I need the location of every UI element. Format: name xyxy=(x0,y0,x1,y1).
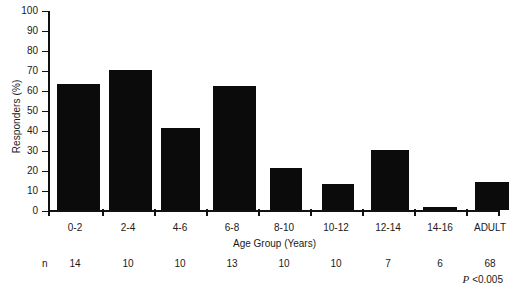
x-category-label-2: 4-6 xyxy=(154,222,206,233)
x-category-label-3: 6-8 xyxy=(206,222,258,233)
y-tick-label-70: 70 xyxy=(12,65,38,76)
y-tick-label-100: 100 xyxy=(12,5,38,16)
y-tick-20: 20 xyxy=(42,171,50,172)
y-tick-label-0: 0 xyxy=(12,205,38,216)
y-tick-label-60: 60 xyxy=(12,85,38,96)
x-tick-5 xyxy=(310,209,312,216)
bar-10-12 xyxy=(322,184,354,210)
bar-6-8 xyxy=(213,86,256,210)
bar-0-2 xyxy=(57,84,100,210)
y-tick-10: 10 xyxy=(42,191,50,192)
bar-8-10 xyxy=(270,168,302,210)
x-category-label-1: 2-4 xyxy=(102,222,154,233)
n-value-8: 68 xyxy=(462,258,518,269)
n-value-1: 10 xyxy=(102,258,154,269)
y-tick-label-30: 30 xyxy=(12,145,38,156)
x-tick-2 xyxy=(154,209,156,216)
bar-4-6 xyxy=(161,128,200,210)
y-tick-60: 60 xyxy=(42,91,50,92)
x-tick-3 xyxy=(206,209,208,216)
n-row-label: n xyxy=(42,258,48,269)
x-category-label-4: 8-10 xyxy=(258,222,310,233)
x-category-label-0: 0-2 xyxy=(48,222,102,233)
y-tick-label-50: 50 xyxy=(12,105,38,116)
n-value-3: 13 xyxy=(206,258,258,269)
x-tick-7 xyxy=(414,209,416,216)
y-tick-100: 100 xyxy=(42,11,50,12)
x-tick-4 xyxy=(258,209,260,216)
x-tick-6 xyxy=(362,209,364,216)
p-value-annotation: P <0.005 xyxy=(463,273,503,285)
y-tick-70: 70 xyxy=(42,71,50,72)
p-symbol: P xyxy=(463,273,470,285)
y-tick-label-20: 20 xyxy=(12,165,38,176)
n-value-0: 14 xyxy=(52,258,98,269)
n-value-7: 6 xyxy=(414,258,466,269)
bar-14-16 xyxy=(423,207,457,210)
y-tick-90: 90 xyxy=(42,31,50,32)
y-tick-30: 30 xyxy=(42,151,50,152)
n-value-5: 10 xyxy=(310,258,362,269)
x-tick-8 xyxy=(466,209,468,216)
x-category-label-5: 10-12 xyxy=(310,222,362,233)
bar-12-14 xyxy=(371,150,409,210)
n-value-2: 10 xyxy=(154,258,206,269)
x-category-label-6: 12-14 xyxy=(362,222,414,233)
plot-area: 0 10 20 30 40 50 60 70 80 90 100 xyxy=(48,11,500,211)
y-tick-label-40: 40 xyxy=(12,125,38,136)
x-tick-1 xyxy=(102,209,104,216)
x-tick-9 xyxy=(498,209,500,216)
bar-adult xyxy=(475,182,509,210)
x-tick-0 xyxy=(48,209,50,216)
x-category-label-7: 14-16 xyxy=(414,222,466,233)
x-axis-title: Age Group (Years) xyxy=(0,238,521,249)
y-tick-40: 40 xyxy=(42,131,50,132)
y-tick-label-90: 90 xyxy=(12,25,38,36)
bar-chart-figure: Responders (%) 0 10 20 30 40 50 60 70 80 xyxy=(0,0,521,291)
y-tick-80: 80 xyxy=(42,51,50,52)
y-tick-label-80: 80 xyxy=(12,45,38,56)
x-category-label-8: ADULT xyxy=(462,222,518,233)
x-axis-line xyxy=(48,210,500,212)
y-tick-50: 50 xyxy=(42,111,50,112)
bar-2-4 xyxy=(109,70,152,210)
p-value-text: <0.005 xyxy=(472,274,503,285)
n-value-4: 10 xyxy=(258,258,310,269)
y-tick-label-10: 10 xyxy=(12,185,38,196)
n-value-6: 7 xyxy=(362,258,414,269)
